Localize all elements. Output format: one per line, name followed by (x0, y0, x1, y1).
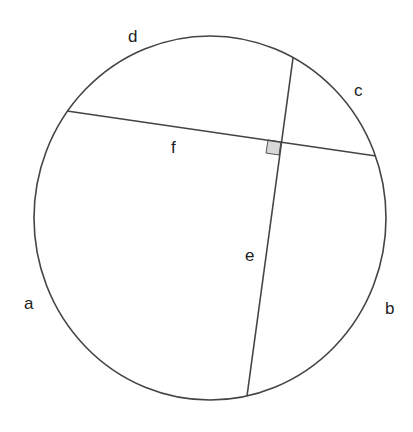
circle-chord-diagram: d c f e a b (0, 0, 413, 432)
label-c: c (354, 81, 363, 100)
label-f: f (171, 138, 176, 157)
chord-e (247, 58, 293, 396)
label-d: d (128, 27, 137, 46)
circle (34, 36, 386, 400)
label-a: a (24, 294, 34, 313)
chord-f (67, 111, 376, 156)
label-b: b (385, 299, 394, 318)
label-e: e (245, 246, 254, 265)
